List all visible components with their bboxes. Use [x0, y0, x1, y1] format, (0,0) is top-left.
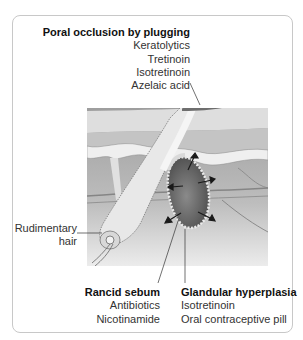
- poral-heading: Poral occlusion by plugging: [43, 26, 190, 39]
- rancid-heading: Rancid sebum: [85, 286, 160, 299]
- rudimentary-line-2: hair: [15, 235, 77, 248]
- treatment-keratolytics: Keratolytics: [43, 39, 190, 52]
- poral-leader-line: [190, 83, 200, 105]
- treatment-oral-contraceptive: Oral contraceptive pill: [181, 313, 297, 326]
- treatment-tretinoin: Tretinoin: [43, 53, 190, 66]
- treatment-isotretinoin: Isotretinoin: [43, 66, 190, 79]
- rancid-sebum-label: Rancid sebum Antibiotics Nicotinamide: [85, 286, 160, 326]
- skin-section: [87, 100, 268, 266]
- treatment-azelaic-acid: Azelaic acid: [43, 79, 190, 92]
- treatment-antibiotics: Antibiotics: [85, 299, 160, 312]
- glandular-hyperplasia-label: Glandular hyperplasia Isotretinoin Oral …: [181, 286, 297, 326]
- glandular-heading: Glandular hyperplasia: [181, 286, 297, 299]
- rudimentary-hair-label: Rudimentary hair: [15, 222, 77, 249]
- rudimentary-line-1: Rudimentary: [15, 222, 77, 235]
- poral-occlusion-label: Poral occlusion by plugging Keratolytics…: [43, 26, 190, 92]
- treatment-isotretinoin-gland: Isotretinoin: [181, 299, 297, 312]
- treatment-nicotinamide: Nicotinamide: [85, 313, 160, 326]
